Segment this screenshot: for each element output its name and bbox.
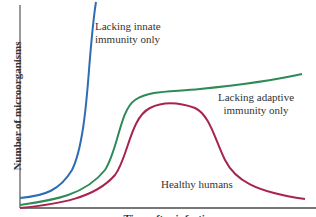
x-axis-label: Time after infection bbox=[110, 212, 230, 217]
series-lacking-innate bbox=[20, 2, 96, 198]
annotation-lacking-innate: Lacking innate immunity only bbox=[95, 20, 161, 46]
annotation-healthy: Healthy humans bbox=[161, 178, 233, 191]
annotation-lacking-adaptive: Lacking adaptive immunity only bbox=[218, 91, 294, 117]
y-axis-label: Number of microorganisms bbox=[11, 41, 23, 171]
series-healthy bbox=[20, 104, 305, 209]
